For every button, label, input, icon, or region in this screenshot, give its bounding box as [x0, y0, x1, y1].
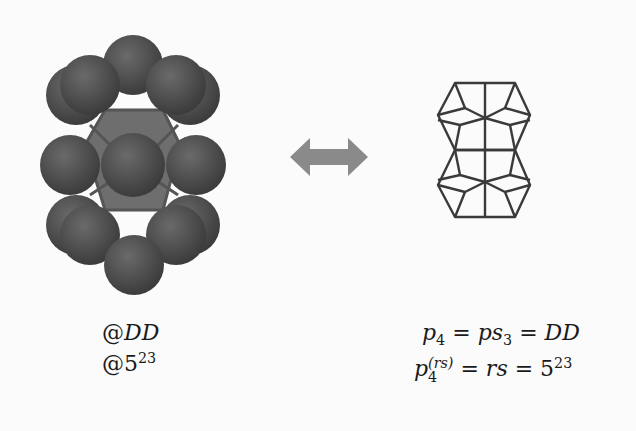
label-sup: 23: [138, 350, 156, 366]
label-main: DD: [124, 320, 159, 345]
eq-sub: 4: [436, 332, 445, 348]
eq-equals: =: [452, 320, 470, 345]
sphere-cluster-model: [30, 15, 230, 305]
eq-sub: 4: [428, 370, 453, 384]
at-symbol: @: [102, 320, 124, 345]
eq-sup: (rs): [428, 356, 453, 370]
label-main: 5: [124, 351, 138, 376]
eq-rs: rs: [486, 356, 508, 381]
eq-equals: =: [515, 356, 533, 381]
equation-2: p(rs)4 = rs = 523: [414, 355, 572, 385]
equation-1: p4 = ps3 = DD: [422, 320, 580, 348]
eq-p: p: [414, 356, 428, 381]
label-at-5-23: @523: [102, 350, 156, 376]
eq-equals: =: [519, 320, 537, 345]
eq-rhs: DD: [545, 320, 580, 345]
eq-ps: ps: [478, 320, 503, 345]
eq-sup: 23: [554, 355, 572, 371]
label-at-dd: @DD: [102, 320, 159, 345]
double-arrow-icon: [290, 135, 370, 180]
eq-p: p: [422, 320, 436, 345]
eq-rhs: 5: [540, 356, 554, 381]
wireframe-double-dodecahedron: [430, 80, 540, 220]
eq-sub: 3: [503, 332, 512, 348]
at-symbol: @: [102, 351, 124, 376]
eq-equals: =: [460, 356, 478, 381]
